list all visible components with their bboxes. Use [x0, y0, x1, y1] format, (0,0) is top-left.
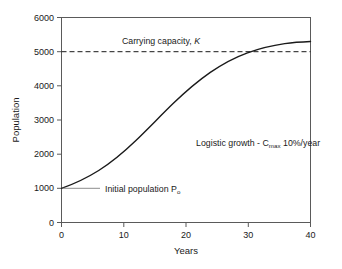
x-tick-label: 20 — [181, 230, 191, 240]
x-tick-label: 10 — [119, 230, 129, 240]
y-tick-label: 5000 — [34, 47, 54, 57]
carrying-capacity-symbol: K — [194, 36, 201, 46]
x-axis-ticks — [62, 223, 311, 228]
y-tick-label: 2000 — [34, 149, 54, 159]
logistic-growth-curve — [62, 42, 311, 189]
x-axis-title: Years — [174, 245, 198, 256]
y-tick-label: 0 — [49, 218, 54, 228]
initial-population-label-text: Initial population P — [105, 184, 177, 194]
initial-population-label: Initial population Po — [105, 184, 181, 195]
chart-canvas: 6000 5000 4000 3000 2000 1000 0 0 10 20 … — [0, 0, 342, 269]
x-tick-label: 40 — [305, 230, 315, 240]
x-axis-tick-labels: 0 10 20 30 40 — [59, 230, 316, 240]
carrying-capacity-label-text: Carrying capacity, — [122, 36, 194, 46]
logistic-growth-subscript: max — [269, 142, 282, 149]
initial-population-subscript: o — [177, 188, 181, 195]
plot-frame — [62, 18, 311, 223]
x-tick-label: 30 — [243, 230, 253, 240]
y-tick-label: 3000 — [34, 115, 54, 125]
logistic-growth-label: Logistic growth - Cmax 10%/year — [196, 138, 320, 149]
y-tick-label: 4000 — [34, 81, 54, 91]
y-tick-label: 1000 — [34, 183, 54, 193]
y-axis-title: Population — [10, 98, 21, 143]
logistic-growth-label-text: Logistic growth - C — [196, 138, 269, 148]
x-tick-label: 0 — [59, 230, 64, 240]
y-tick-label: 6000 — [34, 13, 54, 23]
y-axis-ticks — [57, 18, 62, 223]
logistic-growth-chart-figure: 6000 5000 4000 3000 2000 1000 0 0 10 20 … — [0, 0, 342, 269]
logistic-growth-label-suffix: 10%/year — [281, 138, 321, 148]
y-axis-tick-labels: 6000 5000 4000 3000 2000 1000 0 — [34, 13, 54, 228]
carrying-capacity-label: Carrying capacity, K — [122, 36, 201, 46]
